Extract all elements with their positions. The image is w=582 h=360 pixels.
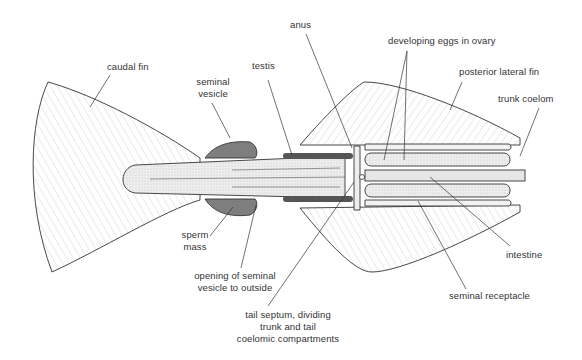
label-seminal-vesicle: seminal vesicle	[183, 76, 243, 100]
label-opening-line1: opening of seminal	[175, 270, 295, 282]
testis-upper	[283, 153, 353, 159]
label-sperm-mass-line1: sperm	[175, 229, 215, 241]
seminal-receptacle-lower	[365, 200, 511, 206]
ovary-lower	[365, 184, 510, 197]
label-seminal-vesicle-line2: vesicle	[183, 88, 243, 100]
label-tail-septum-line3: coelomic compartments	[220, 333, 356, 345]
label-testis: testis	[252, 60, 275, 72]
label-opening-line2: vesicle to outside	[175, 282, 295, 294]
label-opening-seminal-vesicle: opening of seminal vesicle to outside	[175, 270, 295, 294]
label-anus: anus	[290, 19, 311, 31]
seminal-vesicle-lower	[205, 199, 257, 216]
label-intestine: intestine	[506, 249, 542, 261]
label-tail-septum-line1: tail septum, dividing	[220, 309, 356, 321]
label-posterior-lateral-fin: posterior lateral fin	[459, 66, 539, 78]
label-tail-septum-line2: trunk and tail	[220, 321, 356, 333]
label-sperm-mass: sperm mass	[175, 229, 215, 253]
intestine	[365, 170, 525, 181]
label-sperm-mass-line2: mass	[175, 241, 215, 253]
diagram-canvas: caudal fin seminal vesicle testis anus d…	[0, 0, 582, 360]
arrow-worm-illustration	[0, 0, 582, 360]
label-seminal-vesicle-line1: seminal	[183, 76, 243, 88]
seminal-vesicle-upper	[205, 142, 257, 158]
label-tail-septum: tail septum, dividing trunk and tail coe…	[220, 309, 356, 345]
label-caudal-fin: caudal fin	[107, 61, 149, 73]
label-developing-eggs: developing eggs in ovary	[388, 35, 496, 47]
label-trunk-coelom: trunk coelom	[498, 93, 554, 105]
tail-septum	[354, 146, 365, 210]
ovary-upper	[365, 153, 510, 166]
label-seminal-receptacle: seminal receptacle	[449, 290, 530, 302]
